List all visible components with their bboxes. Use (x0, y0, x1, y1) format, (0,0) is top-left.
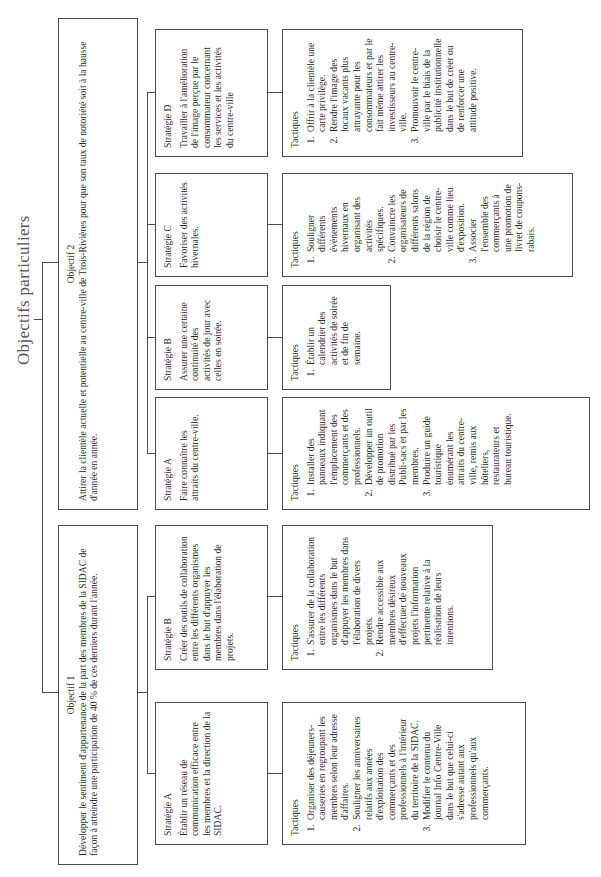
tactics-label: Tactiques (289, 294, 301, 381)
obj2-c-tactics-connector (268, 224, 282, 225)
tactic-item: Convaincre les organisateurs de différen… (386, 182, 467, 254)
tactic-item: Rendre accessible aux membres désireux d… (374, 534, 455, 647)
objectif-2-connector (42, 262, 58, 263)
strategy-text: Créer des outils de collaboration entre … (178, 536, 235, 661)
tactics-label: Tactiques (289, 406, 301, 501)
tactic-item: Rendre l'image des locaux vacants plus a… (328, 38, 409, 134)
obj1-b-tactics-connector (268, 596, 282, 597)
objectif-1-box: Objectif 1 Développer le sentiment d'app… (58, 525, 138, 865)
objectif-2-box: Objectif 2 Attirer la clientèle actuelle… (58, 18, 138, 510)
obj2-down-connector (138, 262, 147, 263)
objectif-1-label: Objectif 1 (65, 534, 77, 856)
obj2-strategy-trunk (147, 92, 148, 454)
obj1-strategie-b-box: Stratégie B Créer des outils de collabor… (155, 525, 268, 670)
obj2-strategie-b-tactics-box: Tactiques Établir un calendrier des acti… (282, 285, 391, 390)
obj1-strategie-a-box: Stratégie A Établir un réseau de communi… (155, 702, 268, 845)
obj1-strat-b-connector (147, 596, 155, 597)
obj2-strategie-d-tactics-box: Tactiques Offrir à la clientèle une cart… (282, 29, 523, 157)
diagram-page: Objectifs particuliers Objectif 1 Dévelo… (0, 0, 601, 877)
strategy-text: Établir un réseau de communication effic… (178, 712, 224, 836)
diagram-title: Objectifs particuliers (14, 215, 34, 365)
strategy-label: Stratégie A (162, 711, 174, 836)
strategy-label: Stratégie D (162, 38, 174, 148)
obj2-d-tactics-connector (268, 92, 282, 93)
main-trunk (42, 262, 43, 693)
tactics-label: Tactiques (289, 38, 301, 148)
obj1-a-tactics-connector (268, 773, 282, 774)
tactic-item: Modifier le contenu du journal Info Cent… (421, 711, 491, 822)
obj2-strategie-d-box: Stratégie D Travailler à l'amélioration … (155, 29, 268, 157)
tactic-item: Installer des panneaux indiquant l'empla… (305, 406, 363, 487)
tactic-item: Développer un outil de promotion distrib… (363, 406, 421, 487)
obj2-strategie-b-box: Stratégie B Assurer une certaine continu… (155, 285, 268, 390)
tactic-item: Souligner les anniversaires relatifs aux… (351, 711, 421, 822)
obj1-strat-a-connector (147, 773, 155, 774)
objectif-1-connector (42, 692, 58, 693)
strategy-label: Stratégie A (162, 406, 174, 501)
tactic-item: Organiser des déjeuners-causeries en reg… (305, 711, 351, 822)
tactic-item: Associer l'ensemble des commerçants à un… (467, 182, 537, 254)
objectif-2-text: Attirer la clientèle actuelle et potenti… (77, 41, 100, 501)
obj1-strategie-b-tactics-box: Tactiques S'assurer de la collaboration … (282, 525, 493, 670)
strategy-text: Faire connaître les attraits du centre-v… (178, 414, 201, 501)
objectif-1-text: Développer le sentiment d'appartenance d… (77, 548, 100, 856)
obj2-strat-d-connector (147, 92, 155, 93)
obj2-strat-c-connector (147, 224, 155, 225)
tactic-item: Produire un guide touristique énumérant … (421, 406, 514, 487)
strategy-label: Stratégie B (162, 534, 174, 661)
strategy-label: Stratégie B (162, 294, 174, 381)
obj2-b-tactics-connector (268, 337, 282, 338)
tactics-label: Tactiques (289, 182, 301, 268)
tactics-label: Tactiques (289, 534, 301, 661)
strategy-text: Assurer une certaine continuité des acti… (178, 300, 224, 381)
obj2-a-tactics-connector (268, 453, 282, 454)
obj1-down-connector (138, 692, 147, 693)
tactic-item: Promouvoir le centre-ville par le biais … (409, 38, 479, 134)
strategy-text: Travailler à l'amélioration de l'image p… (178, 47, 235, 148)
obj2-strategie-c-box: Stratégie C Favoriser des activités hive… (155, 173, 268, 277)
obj1-strategy-trunk (147, 596, 148, 774)
tactic-item: Souligner différents événements hivernau… (305, 182, 386, 254)
obj2-strat-a-connector (147, 453, 155, 454)
objectif-2-label: Objectif 2 (65, 27, 77, 501)
strategy-label: Stratégie C (162, 182, 174, 268)
tactic-item: S'assurer de la collaboration entre les … (305, 534, 375, 647)
strategy-text: Favoriser des activités hivernales. (178, 182, 201, 268)
obj1-strategie-a-tactics-box: Tactiques Organiser des déjeuners-causer… (282, 702, 526, 845)
obj2-strategie-c-tactics-box: Tactiques Souligner différents événement… (282, 173, 573, 277)
tactic-item: Offrir à la clientèle une carte privilèg… (305, 38, 328, 134)
obj2-strategie-a-tactics-box: Tactiques Installer des panneaux indiqua… (282, 397, 590, 510)
obj2-strat-b-connector (147, 337, 155, 338)
tactics-label: Tactiques (289, 711, 301, 836)
tactic-item: Établir un calendrier des activités de s… (305, 294, 363, 367)
obj2-strategie-a-box: Stratégie A Faire connaître les attraits… (155, 397, 268, 510)
